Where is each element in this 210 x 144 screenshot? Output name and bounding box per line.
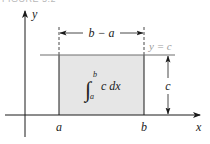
integral-upper-limit: b bbox=[93, 70, 97, 79]
y-axis-label: y bbox=[31, 7, 38, 21]
height-dimension-label: c bbox=[165, 79, 171, 93]
integral-lower-limit: a bbox=[90, 92, 94, 101]
line-y-equals-c-label: y = c bbox=[148, 40, 172, 52]
integral-integrand: c dx bbox=[101, 79, 121, 93]
x-axis-label: x bbox=[195, 120, 202, 134]
tick-label-b: b bbox=[141, 120, 147, 134]
integral-diagram: y x a b b − a c y = c ∫ b a c dx bbox=[0, 0, 210, 144]
width-dimension-label: b − a bbox=[88, 26, 114, 40]
tick-label-a: a bbox=[56, 120, 62, 134]
